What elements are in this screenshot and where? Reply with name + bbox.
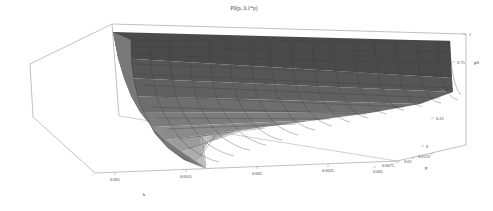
y-tick-label-2: 0.01 xyxy=(404,159,412,164)
y-tick-label-0: 0.005 xyxy=(373,169,384,174)
y-axis-label: p xyxy=(425,165,428,170)
surface-plot-figure: 0.001 0.0015 0.002 0.0025 h 0.005 0.0075… xyxy=(0,0,493,211)
y-tick-label-3: 0.0125 xyxy=(418,154,431,159)
x-tick-label-2: 0.002 xyxy=(252,171,262,176)
plot-title: P0(p, 0.1*p) xyxy=(231,5,258,12)
x-tick-label-1: 0.0015 xyxy=(180,174,193,179)
z-tick-label-4: 1 xyxy=(469,32,471,37)
x-axis-group: 0.001 0.0015 0.002 0.0025 h xyxy=(110,164,335,197)
z-tick-label-3: 0.75 xyxy=(457,60,465,65)
plot-canvas: 0.001 0.0015 0.002 0.0025 h 0.005 0.0075… xyxy=(0,0,493,211)
x-tick-label-0: 0.001 xyxy=(110,177,120,182)
y-tick-label-1: 0.0075 xyxy=(382,163,395,168)
y-axis-group: 0.005 0.0075 0.01 0.0125 p xyxy=(373,153,433,174)
x-axis-label: h xyxy=(143,192,146,197)
z-tick-label-1: 0.25 xyxy=(436,116,444,121)
surface-mesh xyxy=(113,32,461,168)
z-axis-label: p0 xyxy=(474,60,480,65)
x-tick-label-3: 0.0025 xyxy=(322,168,335,173)
z-tick-label-2: 0.5 xyxy=(446,88,452,93)
surface-shading xyxy=(113,32,453,168)
z-tick-label-0: 0 xyxy=(426,144,429,149)
